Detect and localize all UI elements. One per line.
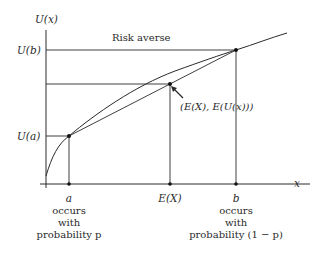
a-desc-line-1: occurs bbox=[52, 206, 86, 216]
chord-line bbox=[69, 50, 236, 136]
point-a-utility bbox=[67, 134, 71, 138]
point-b-utility bbox=[234, 48, 238, 52]
b-tick-label: b bbox=[233, 193, 240, 204]
a-tick-label: a bbox=[66, 193, 72, 204]
y-axis-label: U(x) bbox=[35, 14, 58, 25]
b-desc-line-1: occurs bbox=[219, 206, 253, 216]
a-desc-line-3: probability p bbox=[37, 230, 102, 240]
u-a-tick-label: U(a) bbox=[17, 131, 40, 142]
ex-tick-label: E(X) bbox=[158, 193, 181, 204]
u-b-tick-label: U(b) bbox=[17, 45, 41, 56]
expected-point-annotation: (E(X), E(U(x))) bbox=[180, 102, 253, 112]
point-a-axis bbox=[67, 182, 71, 186]
point-ex-axis bbox=[168, 182, 172, 186]
x-axis-label: x bbox=[294, 178, 300, 189]
diagram-title: Risk averse bbox=[112, 33, 170, 43]
b-desc-line-2: with bbox=[225, 218, 247, 228]
point-b-axis bbox=[234, 182, 238, 186]
a-desc-line-2: with bbox=[58, 218, 80, 228]
b-desc-line-3: probability (1 − p) bbox=[189, 230, 283, 240]
point-expected bbox=[168, 82, 172, 86]
